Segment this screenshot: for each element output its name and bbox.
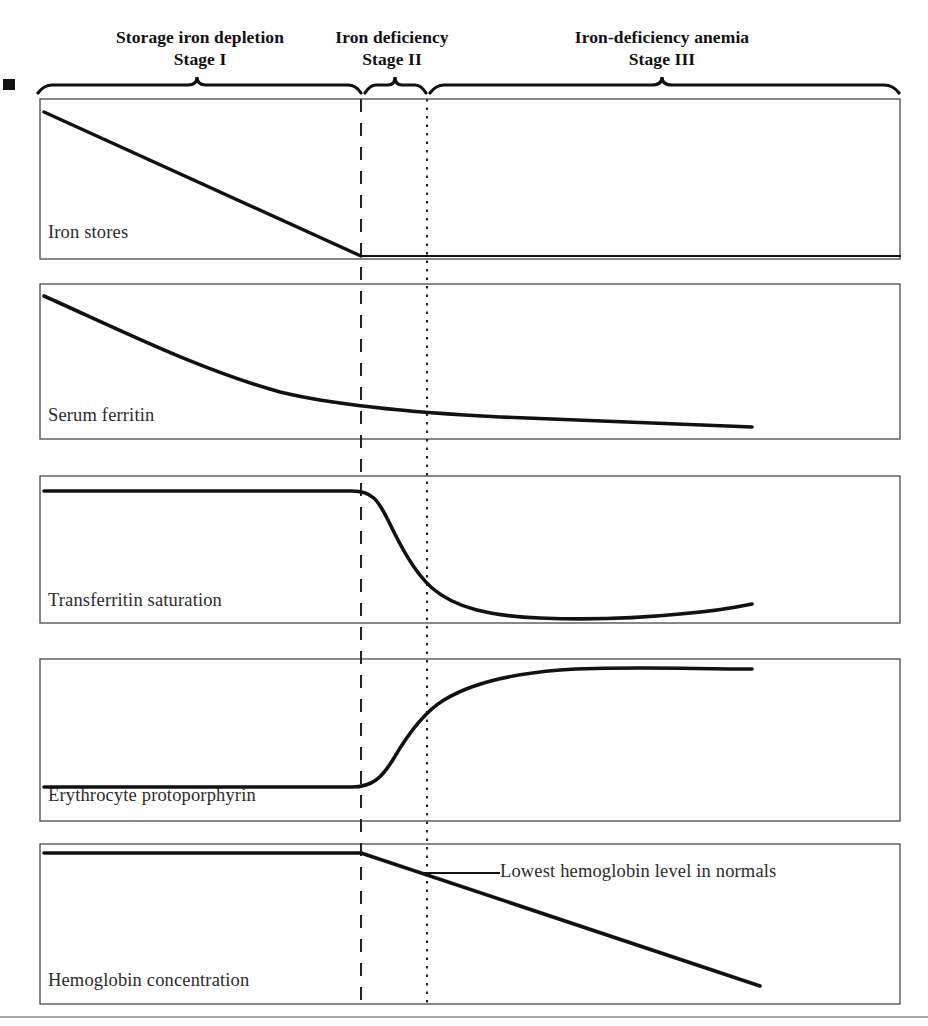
iron-depletion-figure: Storage iron depletion Stage I Iron defi… (0, 0, 928, 1026)
stage-boundary-lines (361, 99, 427, 1004)
panel-label-transferritin-saturation: Transferritin saturation (48, 590, 222, 611)
left-margin-marker (3, 79, 15, 90)
panel-label-hemoglobin-concentration: Hemoglobin concentration (48, 970, 249, 991)
brace-stage-2 (365, 77, 426, 93)
panel-label-erythrocyte-protoporphyrin: Erythrocyte protoporphyrin (48, 785, 256, 806)
annotation-lowest-hemoglobin: Lowest hemoglobin level in normals (500, 861, 776, 882)
brace-stage-1 (38, 77, 361, 93)
figure-canvas (0, 0, 928, 1026)
stage-braces (38, 77, 899, 93)
panel-label-serum-ferritin: Serum ferritin (48, 405, 154, 426)
panel-label-iron-stores: Iron stores (48, 222, 128, 243)
curve-erythrocyte-protoporphyrin (44, 668, 752, 787)
curve-iron-stores (44, 112, 900, 256)
panel-frame-iron-stores (40, 99, 900, 259)
brace-stage-3 (430, 77, 899, 93)
